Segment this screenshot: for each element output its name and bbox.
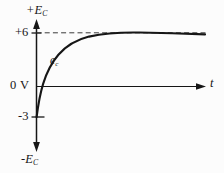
axis-label-negative-ec: -EC — [21, 153, 38, 166]
tick-label-minus-3: -3 — [18, 110, 28, 123]
plot-canvas — [0, 0, 224, 173]
axis-label-positive-ec-text: +E — [26, 3, 42, 17]
vertical-axis-up-arrowhead — [33, 19, 40, 29]
axis-label-positive-ec-subscript: C — [42, 9, 47, 18]
capacitor-voltage-figure: +EC -EC +6 0 V -3 ec t — [0, 0, 224, 173]
voltage-rise-curve — [37, 32, 205, 117]
vertical-axis-down-arrowhead — [33, 142, 40, 152]
vertical-axis — [33, 19, 40, 152]
tick-label-plus-6: +6 — [15, 26, 28, 39]
axis-label-negative-ec-text: -E — [21, 152, 33, 166]
curve-label-ec: ec — [50, 55, 58, 67]
axis-label-positive-ec: +EC — [26, 4, 47, 17]
horizontal-axis — [37, 83, 207, 90]
curve-label-ec-subscript: c — [55, 60, 58, 68]
time-axis-label: t — [210, 77, 213, 90]
axis-label-negative-ec-subscript: C — [33, 158, 38, 167]
time-axis-label-text: t — [210, 76, 213, 90]
horizontal-axis-arrowhead — [196, 83, 206, 90]
tick-label-zero-volts: 0 V — [10, 79, 29, 92]
